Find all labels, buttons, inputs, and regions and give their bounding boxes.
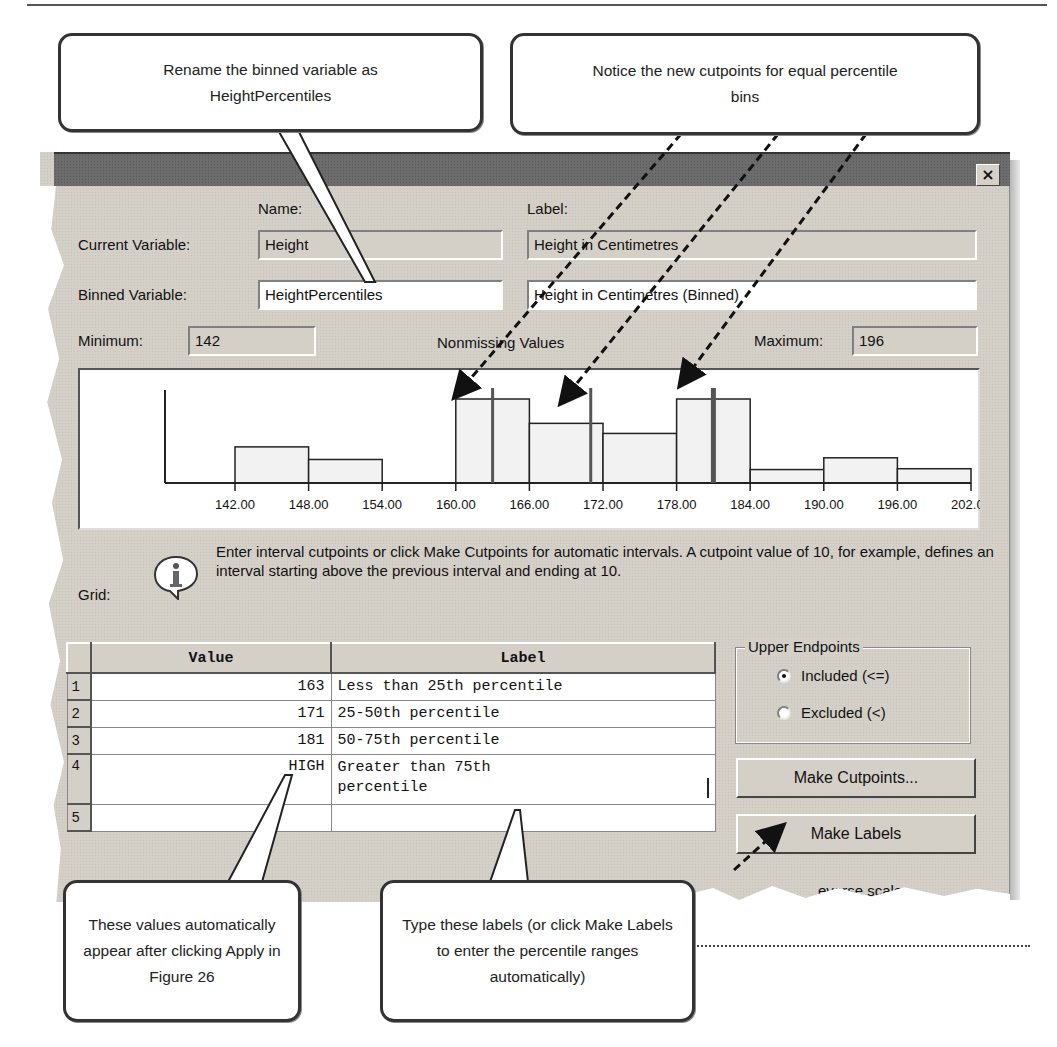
make-cutpoints-button[interactable]: Make Cutpoints... xyxy=(736,758,976,798)
value-cell[interactable]: 171 xyxy=(91,700,331,727)
text-cursor xyxy=(707,778,709,798)
title-bar[interactable]: × xyxy=(54,152,1010,186)
label-line-1: Greater than 75th xyxy=(338,758,715,778)
table-row[interactable]: 5 xyxy=(67,804,715,831)
svg-text:142.00: 142.00 xyxy=(215,497,255,512)
label-cell[interactable] xyxy=(331,804,715,831)
svg-text:178.00: 178.00 xyxy=(657,497,697,512)
label-line-2: percentile xyxy=(338,778,715,798)
close-button[interactable]: × xyxy=(976,164,1000,186)
svg-text:166.00: 166.00 xyxy=(510,497,550,512)
page-header-rule xyxy=(27,4,1047,6)
label-cell[interactable]: Less than 25th percentile xyxy=(331,673,715,700)
name-column-label: Name: xyxy=(258,200,302,217)
value-cell[interactable] xyxy=(91,804,331,831)
svg-text:160.00: 160.00 xyxy=(436,497,476,512)
visual-binning-dialog: × Name: Label: Current Variable: Height … xyxy=(40,152,1010,912)
svg-text:202.00: 202.00 xyxy=(951,497,980,512)
svg-text:154.00: 154.00 xyxy=(362,497,402,512)
value-cell[interactable]: 163 xyxy=(91,673,331,700)
excluded-radio[interactable] xyxy=(777,706,791,720)
included-radio[interactable] xyxy=(777,669,791,683)
grid-instructions: Enter interval cutpoints or click Make C… xyxy=(216,542,1006,580)
upper-endpoints-title: Upper Endpoints xyxy=(745,638,863,655)
callout-cutpoints: Notice the new cutpoints for equal perce… xyxy=(510,33,980,135)
dialog-body: × Name: Label: Current Variable: Height … xyxy=(40,152,1010,902)
table-row[interactable]: 4 HIGH Greater than 75th percentile xyxy=(67,754,715,804)
row-number: 1 xyxy=(67,673,91,700)
callout-values: These values automatically appear after … xyxy=(63,880,301,1022)
excluded-radio-option[interactable]: Excluded (<) xyxy=(777,704,886,721)
callout-labels: Type these labels (or click Make Labels … xyxy=(380,880,695,1022)
grid-header-row: Value Label xyxy=(67,643,715,673)
label-cell[interactable]: 25-50th percentile xyxy=(331,700,715,727)
minimum-value-field: 142 xyxy=(188,326,316,356)
excluded-label: Excluded (<) xyxy=(801,704,886,721)
label-column-label: Label: xyxy=(527,200,568,217)
svg-text:148.00: 148.00 xyxy=(289,497,329,512)
current-variable-label-field: Height in Centimetres xyxy=(527,230,977,260)
value-column-header[interactable]: Value xyxy=(91,643,331,673)
histogram-chart: 142.00148.00154.00160.00166.00172.00178.… xyxy=(78,368,980,530)
table-row[interactable]: 3 181 50-75th percentile xyxy=(67,727,715,754)
table-row[interactable]: 2 171 25-50th percentile xyxy=(67,700,715,727)
cutpoints-grid[interactable]: Value Label 1 163 Less than 25th percent… xyxy=(66,642,716,832)
binned-variable-label-input[interactable]: Height in Centimetres (Binned) xyxy=(527,280,977,310)
svg-text:172.00: 172.00 xyxy=(583,497,623,512)
label-cell[interactable]: 50-75th percentile xyxy=(331,727,715,754)
current-variable-label: Current Variable: xyxy=(78,236,190,253)
callout-rename: Rename the binned variable as HeightPerc… xyxy=(58,33,483,132)
svg-text:196.00: 196.00 xyxy=(878,497,918,512)
grid-label: Grid: xyxy=(78,586,111,603)
binned-variable-name-input[interactable]: HeightPercentiles xyxy=(258,280,503,310)
grid-corner xyxy=(67,643,91,673)
info-icon xyxy=(152,554,200,598)
included-radio-option[interactable]: Included (<=) xyxy=(777,667,889,684)
minimum-label: Minimum: xyxy=(78,332,143,349)
row-number: 4 xyxy=(67,754,91,804)
binned-variable-label: Binned Variable: xyxy=(78,286,187,303)
current-variable-name-field: Height xyxy=(258,230,503,260)
row-number: 3 xyxy=(67,727,91,754)
histogram-svg: 142.00148.00154.00160.00166.00172.00178.… xyxy=(80,370,980,530)
row-number: 2 xyxy=(67,700,91,727)
table-row[interactable]: 1 163 Less than 25th percentile xyxy=(67,673,715,700)
label-cell-editing[interactable]: Greater than 75th percentile xyxy=(331,754,715,804)
label-column-header[interactable]: Label xyxy=(331,643,715,673)
included-label: Included (<=) xyxy=(801,667,889,684)
row-number: 5 xyxy=(67,804,91,831)
svg-text:190.00: 190.00 xyxy=(804,497,844,512)
svg-text:184.00: 184.00 xyxy=(730,497,770,512)
maximum-value-field: 196 xyxy=(852,326,978,356)
upper-endpoints-group: Upper Endpoints Included (<=) Excluded (… xyxy=(736,648,970,743)
nonmissing-values-label: Nonmissing Values xyxy=(437,334,564,351)
value-cell[interactable]: 181 xyxy=(91,727,331,754)
maximum-label: Maximum: xyxy=(754,332,823,349)
label-line-2-text: percentile xyxy=(338,778,428,798)
value-cell[interactable]: HIGH xyxy=(91,754,331,804)
page-footer-rule xyxy=(690,945,1030,947)
close-icon: × xyxy=(981,165,994,184)
make-labels-button[interactable]: Make Labels xyxy=(736,814,976,854)
